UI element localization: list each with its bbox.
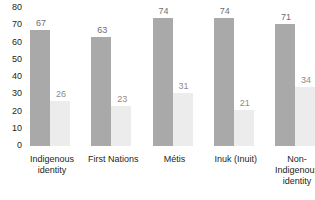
x-axis-category-line: First Nations — [82, 154, 144, 165]
bar: 67 — [30, 30, 50, 146]
x-axis-category-line: Inuk (Inuit) — [205, 154, 267, 165]
x-axis-category-label: Inuk (Inuit) — [205, 154, 267, 165]
bar: 23 — [111, 106, 131, 146]
bar-group: 6726 — [30, 8, 74, 146]
x-axis-category-line: Métis — [144, 154, 206, 165]
x-axis-category-label: Métis — [144, 154, 206, 165]
y-axis-tick-label: 10 — [12, 124, 22, 133]
bar-chart: 01020304050607080 67266323743174217134 I… — [0, 0, 315, 200]
y-axis-tick-label: 80 — [12, 3, 22, 12]
x-axis-category-label: First Nations — [82, 154, 144, 165]
bar-group-bars: 7134 — [275, 8, 315, 146]
plot-area: 67266323743174217134 — [26, 0, 315, 152]
y-axis-tick-label: 50 — [12, 55, 22, 64]
x-axis: IndigenousidentityFirst NationsMétisInuk… — [26, 154, 315, 200]
bar-group-bars: 7421 — [214, 8, 258, 146]
bar-value-label: 71 — [275, 13, 297, 22]
y-axis-tick-label: 0 — [17, 141, 22, 150]
y-axis-tick-label: 30 — [12, 89, 22, 98]
bar: 74 — [214, 18, 234, 146]
bar: 34 — [295, 87, 315, 146]
x-axis-category-line: Non- — [266, 154, 315, 165]
x-axis-category-line: Indigenous — [21, 154, 83, 165]
bar: 31 — [173, 93, 193, 146]
bar-value-label: 67 — [30, 19, 52, 28]
bar-group: 6323 — [91, 8, 135, 146]
bar-group: 7431 — [153, 8, 197, 146]
y-axis-tick-label: 40 — [12, 72, 22, 81]
bar-value-label: 26 — [50, 90, 72, 99]
y-axis-tick-label: 20 — [12, 107, 22, 116]
bar-group-bars: 6726 — [30, 8, 74, 146]
y-axis-tick-label: 60 — [12, 38, 22, 47]
x-axis-category-line: Indigenous — [266, 165, 315, 176]
bar: 63 — [91, 37, 111, 146]
bar-group-bars: 6323 — [91, 8, 135, 146]
bar-value-label: 34 — [295, 76, 315, 85]
y-axis-tick-label: 70 — [12, 20, 22, 29]
bar: 21 — [234, 110, 254, 146]
bar: 74 — [153, 18, 173, 146]
x-axis-category-label: Indigenousidentity — [21, 154, 83, 176]
bar-value-label: 63 — [91, 26, 113, 35]
bar-value-label: 31 — [173, 82, 195, 91]
x-axis-category-line: identity — [266, 176, 315, 187]
bar: 26 — [50, 101, 70, 146]
x-axis-category-label: Non-Indigenousidentity — [266, 154, 315, 187]
x-axis-category-line: identity — [21, 165, 83, 176]
bar-value-label: 74 — [214, 7, 236, 16]
y-axis: 01020304050607080 — [0, 0, 26, 152]
bar-group-bars: 7431 — [153, 8, 197, 146]
bar-value-label: 21 — [234, 99, 256, 108]
bar-group: 7421 — [214, 8, 258, 146]
bar-value-label: 23 — [111, 95, 133, 104]
bar: 71 — [275, 24, 295, 146]
bar-group: 7134 — [275, 8, 315, 146]
bar-value-label: 74 — [153, 7, 175, 16]
